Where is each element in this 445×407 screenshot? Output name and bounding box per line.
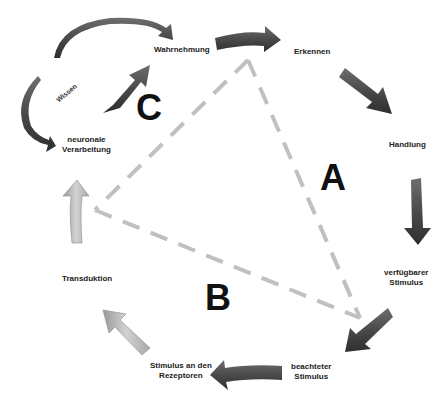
node-neuronale-line1: neuronale [62,135,111,145]
arrow-wahrnehmung-to-erkennen [215,26,281,52]
node-verfuegbarer-line2: Stimulus [384,278,428,288]
region-label-c: C [136,90,162,126]
node-erkennen: Erkennen [294,47,330,57]
node-stimulus-rezeptoren: Stimulus an den Rezeptoren [150,361,212,381]
node-neuronale-line2: Verarbeitung [62,145,111,155]
node-wahrnehmung: Wahrnehmung [154,45,210,55]
node-beachteter-stimulus: beachteter Stimulus [291,362,331,382]
node-rezeptoren-line2: Rezeptoren [150,371,212,381]
region-label-b: B [205,280,231,316]
arrow-handlung-to-verfuegbarer-stimulus [404,178,431,245]
region-label-a: A [320,160,346,196]
perception-cycle-diagram: Wahrnehmung Erkennen Handlung verfügbare… [0,0,445,407]
arrow-beachteter-to-rezeptoren [210,360,282,390]
node-handlung: Handlung [389,140,426,150]
diagram-canvas [0,0,445,407]
node-rezeptoren-line1: Stimulus an den [150,361,212,371]
node-verfuegbarer-stimulus: verfügbarer Stimulus [384,268,428,288]
wissen-arc-left [21,76,56,152]
node-beachteter-line2: Stimulus [291,372,331,382]
node-neuronale-verarbeitung: neuronale Verarbeitung [62,135,111,155]
node-beachteter-line1: beachteter [291,362,331,372]
node-verfuegbarer-line1: verfügbarer [384,268,428,278]
arrow-erkennen-to-handlung [339,68,392,114]
arrow-transduktion-to-neuronale [63,180,89,243]
arrow-rezeptoren-to-transduktion [103,310,150,355]
node-transduktion: Transduktion [62,274,112,284]
